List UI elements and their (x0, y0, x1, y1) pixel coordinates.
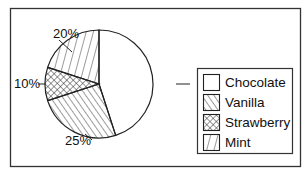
legend-swatch-vanilla (204, 95, 220, 111)
legend-label-strawberry: Strawberry (225, 115, 291, 130)
legend-swatch-strawberry (204, 115, 220, 131)
slice-label-mint: 20% (53, 26, 79, 41)
legend-label-mint: Mint (225, 135, 251, 150)
legend: ChocolateVanillaStrawberryMint (198, 69, 293, 154)
slice-label-vanilla: 25% (65, 133, 91, 148)
legend-label-chocolate: Chocolate (225, 75, 286, 90)
legend-swatch-chocolate (204, 75, 220, 91)
legend-swatch-mint (204, 135, 220, 151)
legend-label-vanilla: Vanilla (225, 95, 265, 110)
pie-slices (45, 30, 153, 138)
slice-label-strawberry: 10% (14, 76, 40, 91)
pie-chart: 45%25%10%20% ChocolateVanillaStrawberryM… (0, 0, 307, 173)
